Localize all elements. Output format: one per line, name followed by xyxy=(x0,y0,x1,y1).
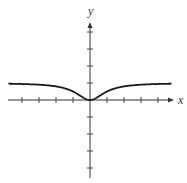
x-axis-label: x xyxy=(177,93,184,107)
y-axis-arrow-icon xyxy=(88,22,93,28)
y-axis-label: y xyxy=(87,4,94,18)
x-axis-arrow-icon xyxy=(168,98,174,103)
function-graph: x y xyxy=(0,0,187,183)
x-axis: x xyxy=(8,93,184,107)
y-axis: y xyxy=(87,4,94,178)
